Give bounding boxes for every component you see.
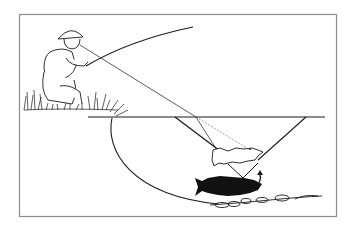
vision-cone-right — [258, 117, 306, 160]
real-fish — [195, 176, 262, 196]
stream-bed-rocks — [210, 195, 322, 208]
angler — [43, 31, 88, 104]
figure: Illustration of an angler kneeling on a … — [0, 0, 351, 229]
fly-rod — [86, 27, 193, 66]
apparent-sight-line — [196, 117, 250, 150]
arrow-head-icon — [257, 170, 263, 175]
stream-bank — [111, 118, 218, 204]
apparent-fish — [212, 148, 263, 166]
apparent-fish-eye — [249, 148, 251, 150]
vision-cone-inner-right — [243, 163, 258, 178]
vision-cone-inner-left — [228, 164, 243, 178]
